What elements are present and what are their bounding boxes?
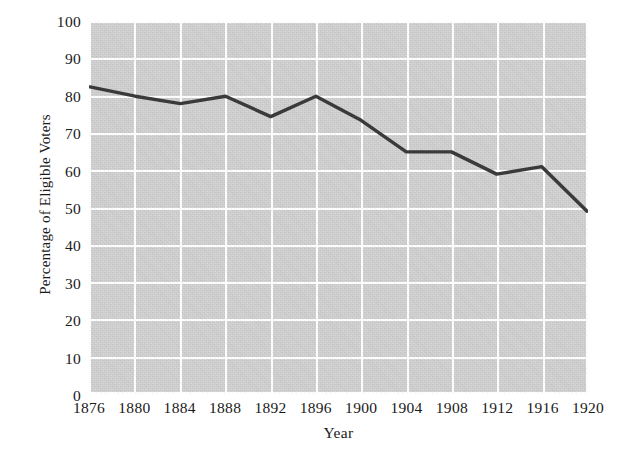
data-series-line	[89, 21, 588, 394]
y-tick-label: 10	[7, 351, 81, 367]
y-axis-title: Percentage of Eligible Voters	[37, 65, 54, 345]
series-polyline-voter-turnout	[90, 87, 587, 211]
x-axis-tick-labels: 1876 1880 1884 1888 1892 1896 1900 1904 …	[89, 399, 588, 421]
x-tick-label: 1920	[558, 399, 618, 417]
x-axis-title: Year	[89, 424, 588, 442]
y-tick-label: 100	[7, 14, 81, 30]
plot-area	[89, 21, 588, 394]
chart-figure: 100 90 80 70 60 50 40 30 20 10 0 Percent…	[0, 0, 623, 469]
